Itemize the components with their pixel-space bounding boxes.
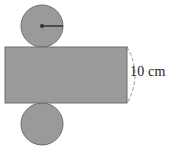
center-point-dot bbox=[40, 24, 44, 28]
cylinder-net-figure: 10 cm bbox=[0, 0, 172, 150]
lateral-surface-rectangle bbox=[5, 47, 127, 103]
bottom-base-circle bbox=[21, 103, 63, 145]
dimension-label-10cm: 10 cm bbox=[130, 64, 166, 80]
